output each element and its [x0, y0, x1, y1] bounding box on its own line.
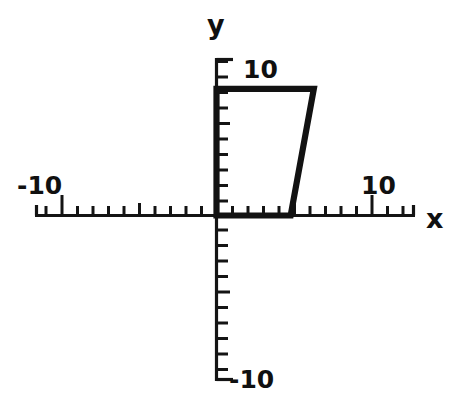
- x-axis-positive-tick-label: 10: [361, 171, 396, 200]
- y-axis-label: y: [207, 9, 225, 40]
- trapezoid-outline: [217, 89, 314, 216]
- y-axis-negative-ticks: [217, 230, 231, 370]
- plotted-shape-group: [217, 89, 314, 216]
- y-axis-negative-tick-label: -10: [229, 365, 274, 394]
- plot-canvas: 10 -10 -10 10 y x: [0, 0, 456, 409]
- x-axis-label: x: [426, 203, 443, 234]
- x-axis-negative-tick-label: -10: [17, 171, 62, 200]
- y-axis-positive-tick-label: 10: [243, 55, 278, 84]
- x-axis-negative-ticks: [46, 195, 202, 216]
- coordinate-plot: 10 -10 -10 10 y x: [0, 0, 456, 409]
